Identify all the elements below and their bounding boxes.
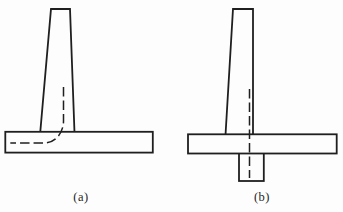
base-slab-b: [188, 134, 337, 153]
retaining-wall-diagram: [0, 0, 343, 212]
diagram-a: [5, 9, 153, 153]
figure-label-a: (a): [61, 190, 101, 205]
base-slab-a: [5, 132, 153, 153]
wall-stem-a: [40, 9, 74, 133]
figure-label-b: (b): [242, 190, 282, 205]
diagram-b: [188, 9, 337, 181]
figure-canvas: (a) (b): [0, 0, 343, 212]
